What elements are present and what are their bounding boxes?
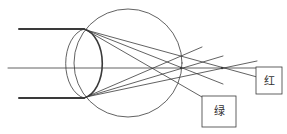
lens-left-edge xyxy=(66,29,84,98)
ray-top-middle xyxy=(86,30,223,84)
ray-bottom-middle xyxy=(86,56,223,97)
focus-point-red xyxy=(221,67,223,69)
ray-top-to-green xyxy=(86,30,202,97)
lens-right-edge xyxy=(84,29,102,98)
focus-point-mid xyxy=(180,67,182,69)
ray-bottom-green xyxy=(86,47,202,97)
eye-focus-diagram: 绿 红 xyxy=(0,0,287,134)
red-label: 红 xyxy=(264,75,275,88)
green-label: 绿 xyxy=(214,104,225,118)
ray-top-to-red xyxy=(86,30,257,77)
ray-bottom-red xyxy=(86,61,257,97)
